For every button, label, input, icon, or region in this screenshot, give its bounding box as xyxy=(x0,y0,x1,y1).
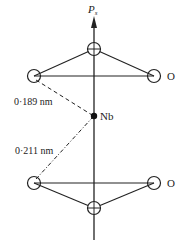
oxygen-label-top: O xyxy=(167,70,175,82)
long-bond-length-label: 0·211 nm xyxy=(15,145,53,156)
axis-arrow-icon xyxy=(91,16,97,28)
oxygen-label-bottom: O xyxy=(167,177,175,189)
short-bond-length-label: 0·189 nm xyxy=(14,96,53,107)
niobium-label: Nb xyxy=(100,110,114,122)
axis-label: Ps xyxy=(87,3,98,17)
nbo6-octahedron-diagram: Ps Nb O O 0·189 nm 0·211 nm xyxy=(0,0,190,250)
niobium-atom xyxy=(91,113,97,119)
